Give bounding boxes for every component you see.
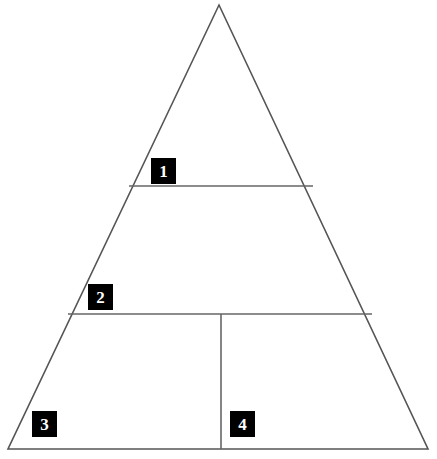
pyramid-label-2-text: 2 bbox=[96, 288, 105, 305]
pyramid-label-1: 1 bbox=[151, 158, 176, 184]
pyramid-label-3-text: 3 bbox=[40, 415, 49, 432]
pyramid-label-3: 3 bbox=[32, 411, 57, 437]
pyramid-outline bbox=[8, 5, 428, 449]
pyramid-label-1-text: 1 bbox=[159, 162, 168, 179]
pyramid-diagram: 1 2 3 4 bbox=[0, 0, 437, 459]
pyramid-label-4-text: 4 bbox=[238, 415, 247, 432]
pyramid-label-4: 4 bbox=[230, 411, 255, 437]
pyramid-label-2: 2 bbox=[88, 284, 113, 310]
pyramid-outline-graphic bbox=[0, 0, 437, 459]
